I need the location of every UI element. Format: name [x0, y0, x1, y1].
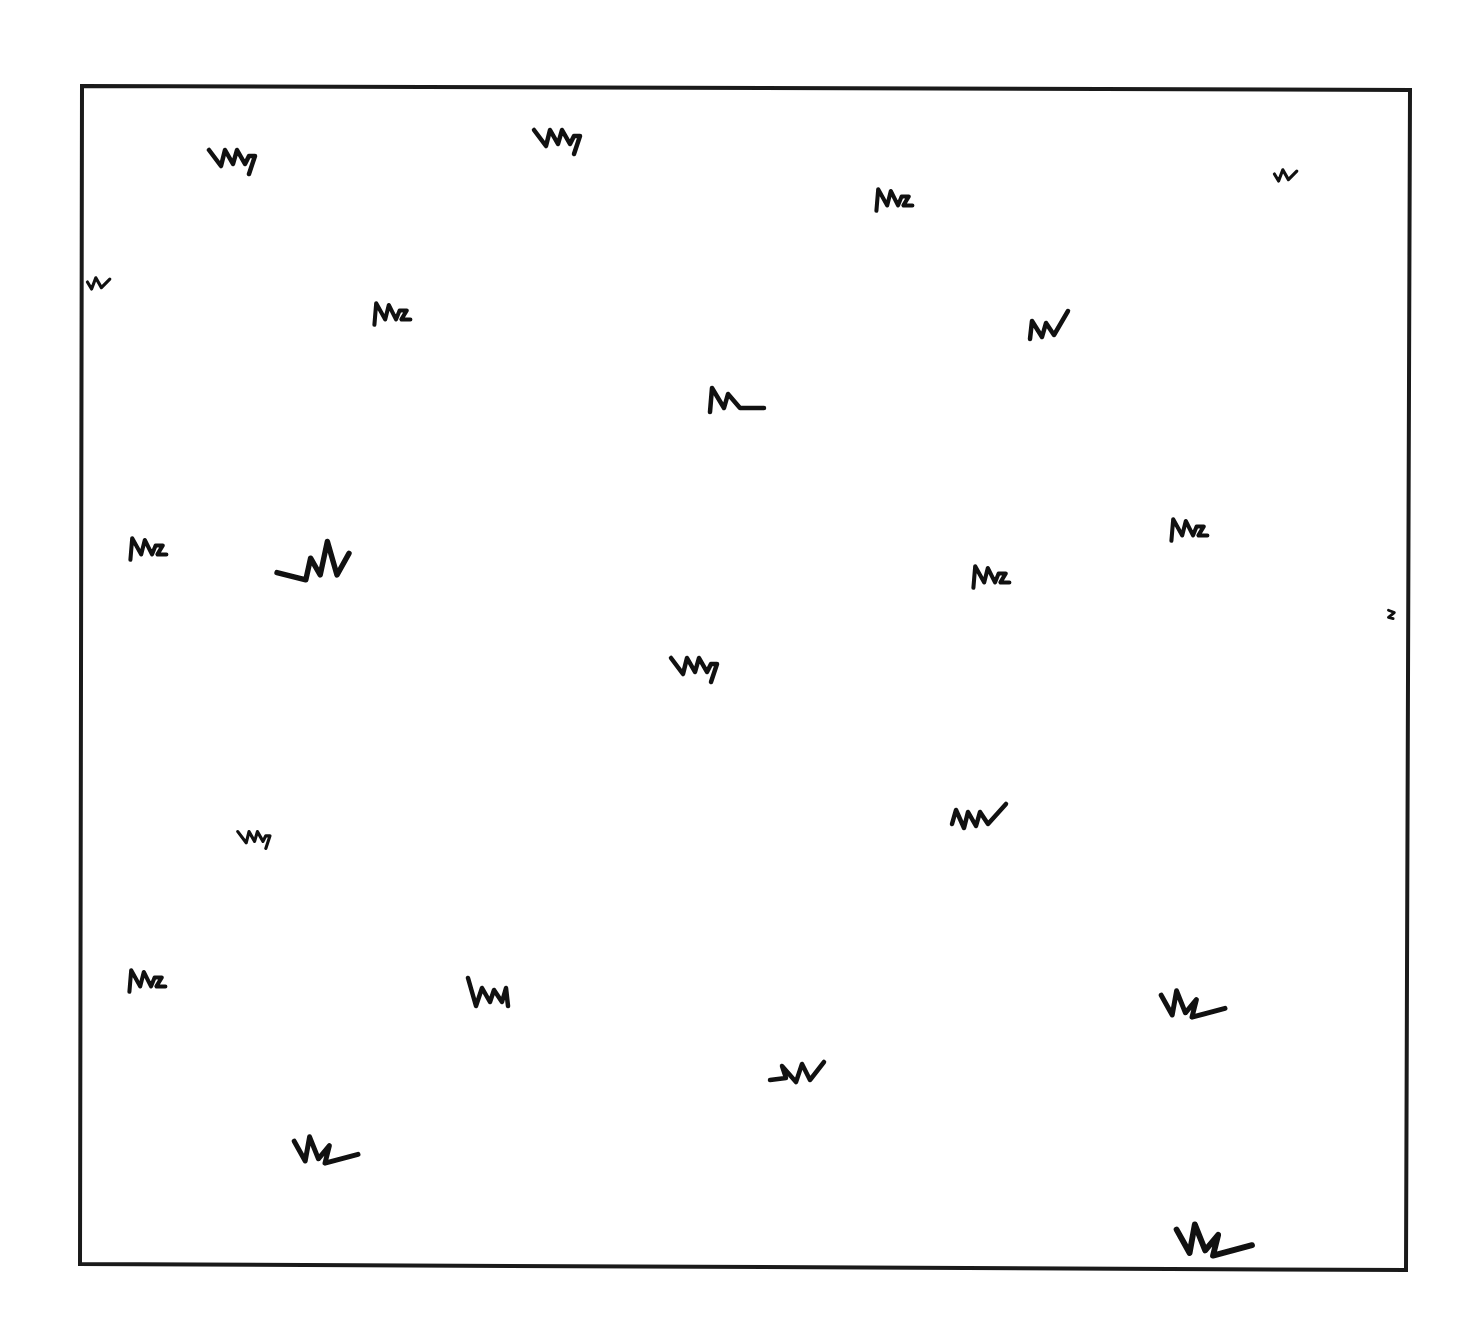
grass-tuft-icon	[770, 1062, 824, 1082]
grass-tuft-icon	[710, 388, 764, 412]
grass-tuft-icon	[1388, 610, 1394, 618]
grass-tuft-icon	[129, 970, 165, 992]
grass-tuft-icon	[876, 189, 912, 211]
grass-tuft-icon	[1030, 311, 1068, 339]
grass-tuft-icon	[238, 832, 270, 849]
grass-tuft-icon	[1171, 519, 1207, 541]
grass-tuft-icon	[468, 978, 508, 1006]
grass-tuft-icon	[1177, 1224, 1252, 1255]
grass-tuft-icon	[671, 658, 717, 682]
grass-tuft-icon	[534, 130, 580, 154]
grass-tuft-icon	[130, 538, 166, 560]
grass-tuft-icon	[1274, 170, 1296, 181]
grass-tuft-icon	[973, 566, 1009, 588]
grass-tuft-icon	[952, 804, 1006, 828]
field-map	[0, 0, 1470, 1330]
grass-tuft-icon	[374, 303, 410, 325]
grass-tuft-icon	[294, 1137, 358, 1163]
grass-tuft-icon	[209, 150, 255, 174]
grass-tuft-icon	[87, 278, 109, 289]
grass-tufts-layer	[87, 130, 1394, 1256]
field-border	[80, 86, 1410, 1270]
grass-tuft-icon	[277, 541, 349, 579]
grass-tuft-icon	[1161, 991, 1225, 1017]
